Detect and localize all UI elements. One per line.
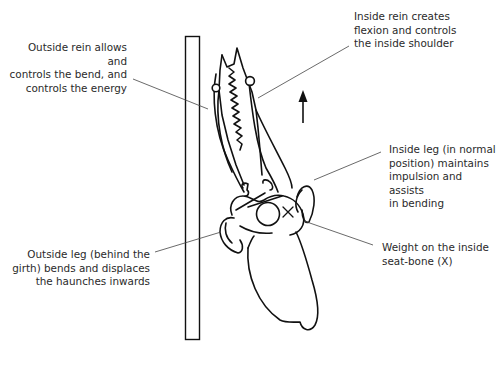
label-inside-rein: Inside rein creates flexion and controls… xyxy=(354,10,494,51)
leader-inside-leg xyxy=(314,152,381,180)
leader-lines xyxy=(133,46,381,252)
label-inside-leg: Inside leg (in normal position) maintain… xyxy=(389,143,499,211)
arena-wall xyxy=(186,37,200,340)
leader-outside-rein xyxy=(133,79,208,109)
label-outside-rein: Outside rein allows and controls the ben… xyxy=(6,41,127,95)
leader-inside-rein xyxy=(258,46,349,98)
leader-weight xyxy=(304,221,373,245)
leader-outside-leg xyxy=(155,232,221,252)
direction-arrow-icon xyxy=(299,90,308,123)
label-outside-leg: Outside leg (behind the girth) bends and… xyxy=(0,248,150,289)
label-weight: Weight on the inside seat-bone (X) xyxy=(382,241,500,268)
horse-illustration xyxy=(212,48,318,330)
